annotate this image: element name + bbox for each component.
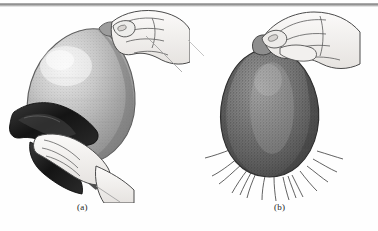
top-horizontal-rule-shadow [0,6,378,7]
panel-b-label: (b) [274,202,285,212]
guide-line-b [188,36,204,56]
figure-sheet: (a) (b) [0,0,378,231]
figure-panels [0,8,378,203]
figure-caption [0,222,378,231]
figure-panel-a [0,8,190,203]
panel-labels: (a) (b) [0,202,378,218]
panel-a-label: (a) [77,202,88,212]
figure-panel-b [188,8,378,203]
